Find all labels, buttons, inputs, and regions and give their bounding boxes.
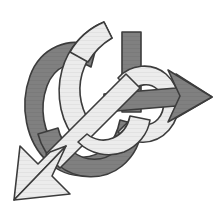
figure-canvas (0, 0, 218, 218)
knot-diagram (0, 0, 218, 218)
